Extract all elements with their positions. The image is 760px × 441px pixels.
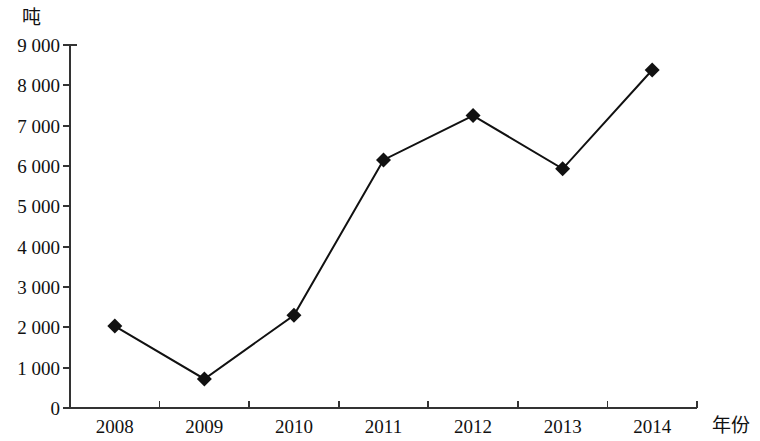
data-point-marker: [286, 308, 301, 323]
data-point-marker: [466, 108, 481, 123]
data-point-marker: [107, 319, 122, 334]
data-point-marker: [197, 371, 212, 386]
plot-area: [0, 0, 760, 441]
line-chart: 吨 年份 01 0002 0003 0004 0005 0006 0007 00…: [0, 0, 760, 441]
data-markers: [107, 63, 659, 387]
data-series: [115, 70, 652, 379]
axes: [63, 45, 697, 408]
data-point-marker: [376, 152, 391, 167]
series-line: [115, 70, 652, 379]
